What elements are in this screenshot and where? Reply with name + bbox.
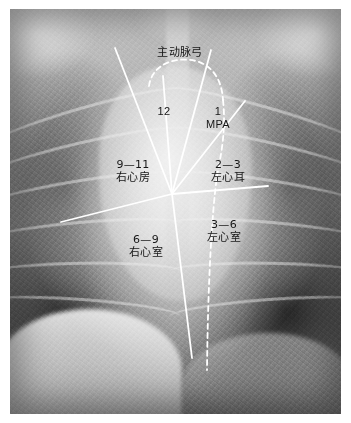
label-sector-9-11-name: 右心房 [116,171,150,184]
label-sector-1-name: MPA [206,118,230,131]
label-sector-1: 1 MPA [206,105,230,131]
label-sector-12: 12 [158,105,171,118]
annotation-overlay [10,9,341,414]
label-sector-6-9: 6—9 右心室 [129,233,163,259]
label-sector-6-9-name: 右心室 [129,246,163,259]
label-sector-2-3-name: 左心耳 [211,171,245,184]
label-aortic-arch-text: 主动脉弓 [157,46,202,59]
solid-ray-group [61,48,268,358]
label-sector-1-number: 1 [206,105,230,118]
radiograph-plate [10,9,341,414]
label-sector-3-6: 3—6 左心室 [207,218,241,244]
label-sector-3-6-name: 左心室 [207,231,241,244]
label-sector-6-9-number: 6—9 [129,233,163,246]
label-sector-2-3: 2—3 左心耳 [211,158,245,184]
ray-horizontal-right [172,186,268,194]
label-sector-12-number: 12 [158,105,171,118]
figure-root: 主动脉弓 12 1 MPA 9—11 右心房 2—3 左心耳 6—9 右心室 3… [0,0,351,423]
ray-ventricle-divider [172,194,192,358]
label-sector-9-11: 9—11 右心房 [116,158,150,184]
aortic-arch-dome [149,60,223,100]
ray-horizontal-left [61,194,172,222]
label-sector-3-6-number: 3—6 [207,218,241,231]
label-sector-2-3-number: 2—3 [211,158,245,171]
label-sector-9-11-number: 9—11 [116,158,150,171]
label-aortic-arch: 主动脉弓 [157,46,202,59]
